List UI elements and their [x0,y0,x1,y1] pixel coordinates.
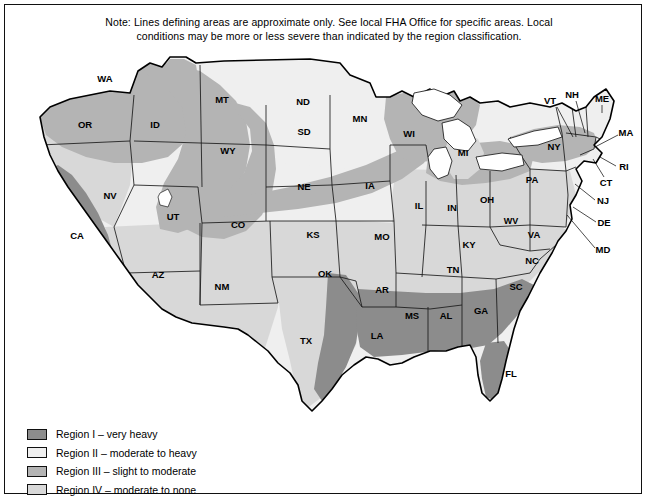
state-label: ND [296,96,310,107]
state-label: MT [215,94,229,105]
state-label: NC [525,255,539,266]
leader-line [593,159,604,177]
callout-label: VT [544,95,556,106]
map-frame: Note: Lines defining areas are approxima… [4,4,642,494]
callout-label: MA [619,127,634,138]
state-label: MN [353,113,368,124]
state-label: OK [318,268,332,279]
state-label: OR [78,119,92,130]
state-label: AL [440,310,453,321]
legend-swatch-region-2 [27,447,47,458]
map-legend: Region I – very heavy Region II – modera… [27,425,197,499]
state-label: NE [297,181,310,192]
callout-label: NJ [597,195,609,206]
state-label: CO [231,219,245,230]
callout-label: ME [595,93,609,104]
region-4-midatlantic [392,169,576,281]
callout-label: RI [619,161,629,172]
map-note: Note: Lines defining areas are approxima… [65,15,593,43]
state-label: LA [371,330,384,341]
legend-label-region-1: Region I – very heavy [56,428,158,440]
state-label: WV [504,216,519,226]
map-note-line-1: Note: Lines defining areas are approxima… [65,15,593,29]
map-note-line-2: conditions may be more or less severe th… [65,29,593,43]
state-label: WI [403,128,415,139]
legend-item-region-3[interactable]: Region III – slight to moderate [27,462,197,481]
state-label: GA [474,305,488,316]
state-label: IA [365,180,375,191]
state-label: SC [509,281,522,292]
state-label: TX [300,335,313,346]
state-label: IN [447,202,457,213]
state-label: TN [447,264,460,275]
state-label: ID [150,119,160,130]
legend-item-region-4[interactable]: Region IV – moderate to none [27,481,197,500]
callout-label: DE [597,217,610,228]
callout-label: MD [596,244,611,255]
state-label: PA [526,174,539,185]
us-map: WA OR ID MT ND MN WI MI SD WY NV UT CO N… [10,45,638,420]
state-label: IL [415,200,424,211]
state-label: NM [215,281,230,292]
leader-line [567,215,595,248]
state-label: AZ [152,269,165,280]
legend-label-region-2: Region II – moderate to heavy [56,447,197,459]
legend-item-region-1[interactable]: Region I – very heavy [27,425,197,444]
callout-label: CT [600,177,613,188]
state-label: VA [528,229,541,240]
leader-line [600,157,616,166]
state-label: WY [220,145,236,156]
state-label: AR [375,284,389,295]
legend-swatch-region-4 [27,484,47,495]
callout-label: NH [565,89,579,100]
us-map-svg: WA OR ID MT ND MN WI MI SD WY NV UT CO N… [10,45,638,420]
legend-label-region-3: Region III – slight to moderate [56,465,196,477]
leader-line [573,207,596,222]
legend-label-region-4: Region IV – moderate to none [56,484,196,496]
state-label: WA [97,73,112,84]
legend-swatch-region-3 [27,466,47,477]
state-label: SD [297,126,310,137]
state-label: FL [505,368,517,379]
legend-item-region-2[interactable]: Region II – moderate to heavy [27,444,197,463]
state-label: MO [374,231,389,242]
state-label: KS [306,229,319,240]
state-label: NY [547,141,561,152]
state-label: CA [70,230,84,241]
state-label: UT [167,211,180,222]
state-label: NV [103,190,117,201]
state-label: KY [462,239,476,250]
legend-swatch-region-1 [27,429,47,440]
state-label: MS [405,310,419,321]
state-label: OH [480,194,494,205]
state-label: MI [458,147,469,158]
